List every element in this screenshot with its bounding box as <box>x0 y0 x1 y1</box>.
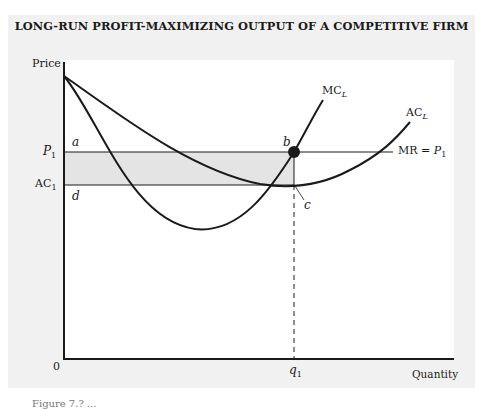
p1-tick-label: P1 <box>43 144 56 160</box>
ac-curve-label: ACL <box>406 106 428 121</box>
profit-region <box>64 152 294 185</box>
q1-tick-label: q1 <box>289 363 302 379</box>
point-a-label: a <box>72 135 79 149</box>
mc-curve-label: MCL <box>322 84 347 99</box>
point-d-label: d <box>72 189 80 203</box>
point-b-label: b <box>283 135 291 149</box>
mr-line-label: MR = P1 <box>398 144 446 159</box>
x-axis-label: Quantity <box>412 368 458 380</box>
ac1-tick-label: AC1 <box>35 177 56 192</box>
y-axis-label: Price <box>32 57 61 70</box>
point-c-label: c <box>304 198 311 212</box>
origin-label: 0 <box>53 360 60 373</box>
figure-caption: Figure 7.? ... <box>32 398 96 409</box>
c-pointer <box>295 186 304 200</box>
